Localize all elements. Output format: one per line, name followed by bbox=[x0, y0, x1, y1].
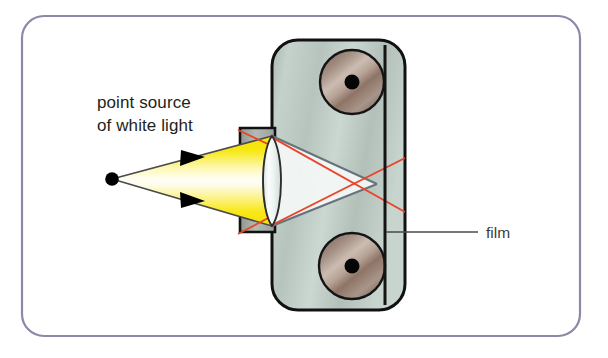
spool-bottom-hub-icon bbox=[345, 259, 360, 274]
point-source-label-line2: of white light bbox=[97, 116, 193, 135]
lens-glass bbox=[263, 136, 281, 226]
point-source-label-line1: point source bbox=[97, 93, 191, 112]
white-light-cone bbox=[112, 136, 272, 226]
spool-top-hub-icon bbox=[345, 75, 360, 90]
film-label: film bbox=[486, 224, 510, 241]
camera-lens bbox=[263, 136, 281, 226]
film-spool-top bbox=[320, 50, 384, 114]
optics-diagram: point source of white light film bbox=[0, 0, 608, 358]
figure-container: point source of white light film bbox=[0, 0, 608, 358]
point-source-dot bbox=[105, 172, 119, 186]
film-spool-bottom bbox=[319, 233, 385, 299]
light-cone-fill bbox=[112, 136, 272, 226]
